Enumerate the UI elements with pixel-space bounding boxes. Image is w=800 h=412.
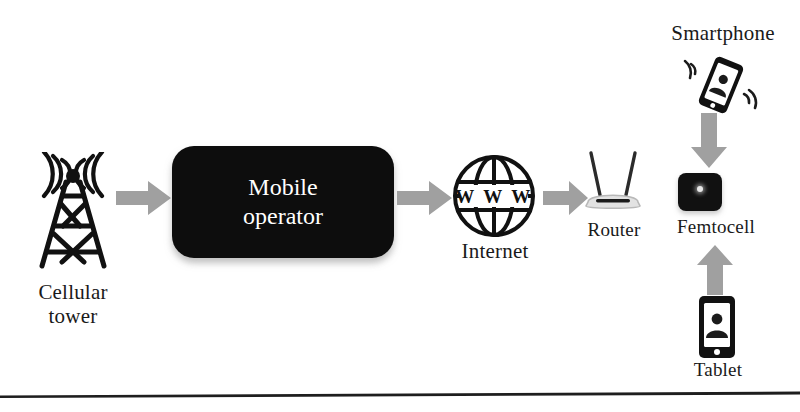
network-diagram: Cellular tower Mobile operator (0, 0, 800, 412)
cellular-tower-label: Cellular tower (10, 281, 136, 328)
router-icon (578, 148, 648, 214)
mobile-operator-label: Mobile operator (243, 173, 323, 232)
bottom-divider (0, 384, 800, 392)
smartphone-label: Smartphone (650, 22, 796, 46)
internet-label: Internet (440, 240, 550, 264)
mobile-operator-box: Mobile operator (172, 146, 394, 258)
femtocell-led-indicator (697, 186, 703, 192)
arrow-tablet-to-femtocell-icon (694, 244, 736, 296)
arrow-operator-to-internet-icon (396, 178, 454, 218)
globe-www-text: W W W (455, 186, 533, 207)
femtocell-icon (678, 173, 722, 211)
tablet-icon (692, 294, 742, 360)
cellular-tower-icon (18, 152, 128, 277)
tablet-label: Tablet (668, 359, 768, 380)
arrow-tower-to-operator-icon (114, 178, 174, 218)
arrow-smartphone-to-femtocell-icon (688, 112, 730, 170)
router-label: Router (572, 219, 656, 240)
globe-icon: W W W (448, 152, 540, 240)
smartphone-icon (682, 52, 760, 120)
femtocell-label: Femtocell (655, 216, 777, 237)
